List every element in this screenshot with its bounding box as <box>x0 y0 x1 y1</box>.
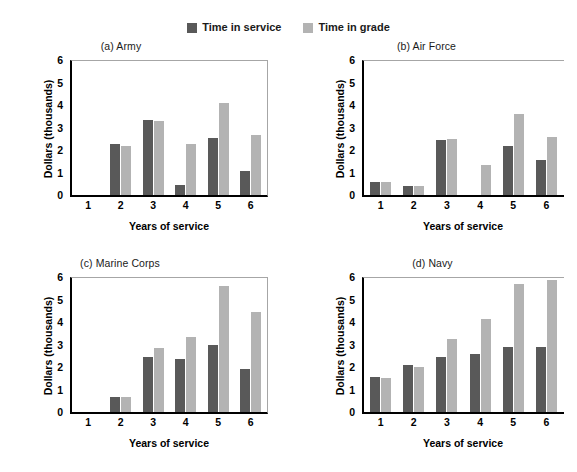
bar-group-year-3 <box>436 277 457 412</box>
y-tick-label: 4 <box>349 100 355 111</box>
bar-time-in-service <box>143 357 153 412</box>
y-tick-label: 1 <box>349 167 355 178</box>
x-tick-label: 6 <box>536 416 557 428</box>
bar-time-in-service <box>536 160 546 195</box>
bar-group-year-1 <box>370 60 391 195</box>
bar-time-in-grade <box>186 144 196 195</box>
y-tick-label: 6 <box>349 272 355 283</box>
panel-title-navy: (d) Navy <box>288 257 577 269</box>
bar-time-in-grade <box>381 182 391 196</box>
bar-group-year-1 <box>370 277 391 412</box>
x-tick-label: 4 <box>470 416 491 428</box>
x-tick-label: 5 <box>208 416 229 428</box>
y-tick-label: 3 <box>349 339 355 350</box>
x-tick-label: 2 <box>403 199 424 211</box>
legend-swatch-time-in-service <box>187 23 197 33</box>
bar-time-in-service <box>110 144 120 195</box>
bar-time-in-grade <box>121 146 131 196</box>
y-tick-label: 2 <box>349 362 355 373</box>
bar-group-year-5 <box>503 277 524 412</box>
x-tick-label: 3 <box>143 416 164 428</box>
bar-time-in-service <box>536 347 546 412</box>
bar-time-in-grade <box>447 139 457 195</box>
x-tick-label: 4 <box>175 416 196 428</box>
bar-group-year-3 <box>143 60 164 195</box>
bar-group-container-navy <box>364 277 563 412</box>
bar-group-year-4 <box>175 277 196 412</box>
bar-time-in-grade <box>481 165 491 195</box>
x-axis-title-navy: Years of service <box>362 437 564 449</box>
legend-entry-time-in-service: Time in service <box>187 22 281 33</box>
bar-time-in-service <box>470 354 480 413</box>
bar-time-in-service <box>403 365 413 412</box>
chart-panel-air-force: (b) Air Force Dollars (thousands) 012345… <box>288 38 577 255</box>
bar-time-in-grade <box>154 348 164 412</box>
x-tick-label: 2 <box>110 416 131 428</box>
y-tick-label: 6 <box>57 272 63 283</box>
bar-time-in-grade <box>121 397 131 412</box>
bar-group-year-6 <box>536 277 557 412</box>
y-tick-label: 1 <box>57 167 63 178</box>
bar-group-container-air-force <box>364 60 563 195</box>
x-tick-label: 3 <box>436 199 457 211</box>
bar-time-in-service <box>208 138 218 195</box>
bar-group-container-army <box>72 60 267 195</box>
x-tick-label: 4 <box>175 199 196 211</box>
y-tick-label: 6 <box>349 55 355 66</box>
bar-group-year-6 <box>240 60 261 195</box>
bar-time-in-grade <box>514 114 524 195</box>
chart-panel-grid: (a) Army Dollars (thousands) 0123456 123… <box>0 38 577 472</box>
x-axis-ticks-army: 123456 <box>72 199 267 211</box>
bar-time-in-service <box>175 359 185 412</box>
bar-time-in-service <box>208 345 218 413</box>
x-tick-label: 6 <box>240 199 261 211</box>
y-tick-label: 2 <box>57 362 63 373</box>
chart-legend: Time in service Time in grade <box>0 22 577 33</box>
bar-time-in-service <box>240 369 250 412</box>
bar-time-in-service <box>110 397 120 412</box>
x-tick-label: 5 <box>503 199 524 211</box>
panel-title-air-force: (b) Air Force <box>282 40 571 52</box>
plot-area-army: Dollars (thousands) 0123456 123456 Years… <box>44 60 268 197</box>
chart-panel-army: (a) Army Dollars (thousands) 0123456 123… <box>0 38 288 255</box>
plot-area-navy: Dollars (thousands) 0123456 123456 Years… <box>336 277 564 414</box>
bar-time-in-grade <box>381 378 391 412</box>
bar-group-year-2 <box>403 277 424 412</box>
figure-military-pay-charts: Time in service Time in grade (a) Army D… <box>0 0 577 472</box>
bar-time-in-grade <box>251 312 261 412</box>
x-axis-ticks-air-force: 123456 <box>364 199 563 211</box>
x-axis-title-marine-corps: Years of service <box>70 437 268 449</box>
x-tick-label: 4 <box>470 199 491 211</box>
x-tick-label: 3 <box>436 416 457 428</box>
y-tick-label: 3 <box>349 122 355 133</box>
y-tick-label: 5 <box>57 294 63 305</box>
bar-time-in-service <box>436 140 446 195</box>
y-tick-label: 5 <box>349 77 355 88</box>
bar-time-in-grade <box>447 339 457 412</box>
x-tick-label: 6 <box>536 199 557 211</box>
bar-group-year-3 <box>436 60 457 195</box>
bar-time-in-grade <box>514 284 524 412</box>
bar-time-in-grade <box>219 286 229 412</box>
bar-group-container-marine-corps <box>72 277 267 412</box>
y-tick-label: 4 <box>57 100 63 111</box>
bar-time-in-service <box>370 377 380 412</box>
y-tick-label: 0 <box>57 190 63 201</box>
y-tick-label: 3 <box>57 339 63 350</box>
legend-label-time-in-service: Time in service <box>202 22 281 33</box>
bar-group-year-6 <box>240 277 261 412</box>
y-tick-label: 3 <box>57 122 63 133</box>
x-axis-ticks-navy: 123456 <box>364 416 563 428</box>
x-tick-label: 5 <box>208 199 229 211</box>
bar-time-in-service <box>403 186 413 195</box>
panel-title-army: (a) Army <box>0 40 265 52</box>
bar-group-year-4 <box>470 277 491 412</box>
bar-time-in-grade <box>251 135 261 195</box>
y-tick-label: 0 <box>57 407 63 418</box>
bar-group-year-4 <box>175 60 196 195</box>
y-tick-label: 0 <box>349 407 355 418</box>
legend-label-time-in-grade: Time in grade <box>318 22 389 33</box>
x-tick-label: 1 <box>78 199 99 211</box>
y-axis-ticks-army: 0123456 <box>44 60 70 197</box>
x-tick-label: 2 <box>403 416 424 428</box>
